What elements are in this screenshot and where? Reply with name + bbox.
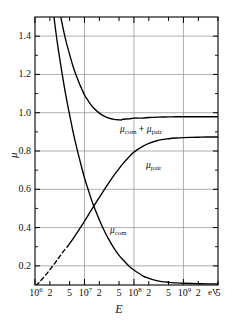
sum-curve-label: μcom + μpair [120,125,162,135]
y-tick-label: 0.4 [0,223,31,233]
x-axis-unit-label: eV [208,288,219,297]
y-tick-label: 1.0 [0,108,31,118]
data-curves [35,0,218,285]
y-tick-label: 1.4 [0,31,31,41]
pair-curve-label: μpair [146,161,161,171]
curve-mu-pair [67,137,218,247]
x-axis-title: E [115,303,122,315]
x-tick-label: 106 [29,288,42,298]
y-tick-label: 1.2 [0,69,31,79]
y-tick-label: 0.6 [0,184,31,194]
curve-mu-sum [35,0,218,120]
x-tick-label: 2 [196,288,201,298]
curve-mu-com [35,0,218,284]
x-tick-label: 2 [97,288,102,298]
x-tick-label: 5 [67,288,72,298]
com-curve-label: μcom [110,226,126,236]
x-tick-label: 108 [128,288,141,298]
figure: 0.20.40.60.81.01.21.4 106251072510825109… [0,0,235,326]
x-tick-label: 107 [79,288,92,298]
y-tick-label: 0.2 [0,261,31,271]
x-tick-label: 109 [178,288,191,298]
grid-lines [35,17,218,285]
x-tick-label: 5 [166,288,171,298]
chart-canvas [0,0,235,326]
y-axis-title: μ [8,152,19,158]
x-tick-label: 5 [117,288,122,298]
x-tick-label: 2 [146,288,151,298]
x-tick-label: 2 [47,288,52,298]
